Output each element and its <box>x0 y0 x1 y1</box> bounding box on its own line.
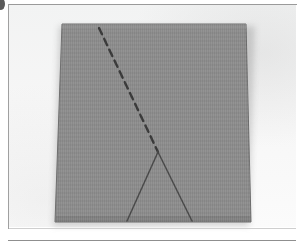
scene-illustration <box>0 0 304 248</box>
figure-frame-left <box>8 4 9 229</box>
figure-frame-inner-bottom <box>9 228 296 229</box>
figure-frame-bottom <box>8 240 296 241</box>
card-top-edge-highlight <box>62 24 246 29</box>
figure-frame-top <box>8 4 297 5</box>
card-bottom-edge-shading <box>55 216 251 222</box>
figure-container <box>0 0 304 248</box>
gray-paper-sheet <box>55 24 251 222</box>
